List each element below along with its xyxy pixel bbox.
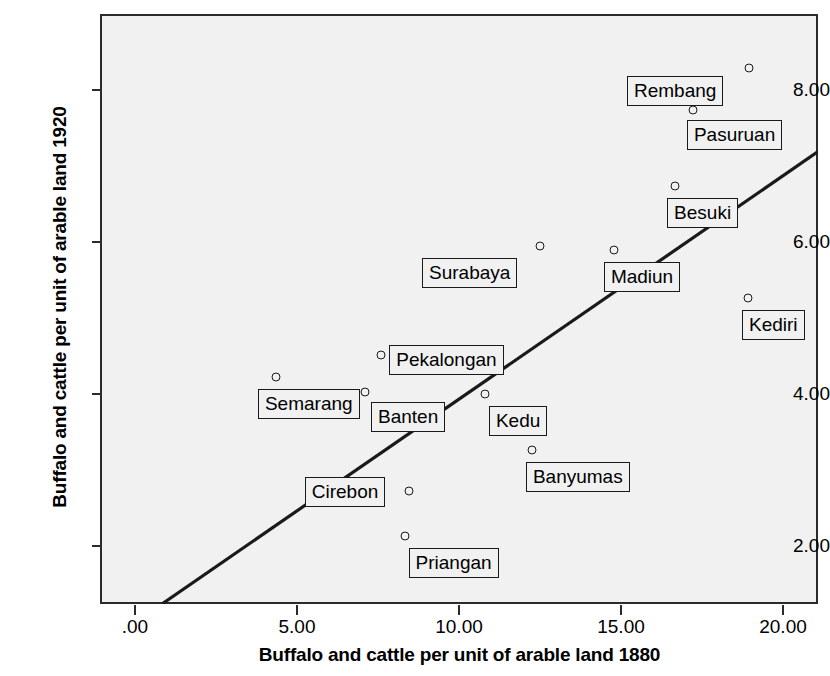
data-point-kediri[interactable]: [744, 294, 753, 303]
y-tick-mark: [92, 89, 101, 91]
data-point-kedu[interactable]: [480, 390, 489, 399]
point-label-besuki: Besuki: [667, 198, 738, 228]
point-label-kediri: Kediri: [742, 310, 805, 340]
point-label-madiun: Madiun: [604, 262, 680, 292]
point-label-priangan: Priangan: [409, 548, 499, 578]
y-tick-mark: [92, 241, 101, 243]
data-point-rembang[interactable]: [744, 63, 753, 72]
data-point-cirebon[interactable]: [404, 487, 413, 496]
data-point-surabaya[interactable]: [536, 241, 545, 250]
y-tick-label: 4.00: [744, 383, 830, 405]
y-tick-label: 6.00: [744, 231, 830, 253]
point-label-banyumas: Banyumas: [526, 462, 630, 492]
data-point-pasuruan[interactable]: [688, 105, 697, 114]
point-label-pekalongan: Pekalongan: [389, 345, 503, 375]
x-tick-mark: [782, 605, 784, 615]
point-label-cirebon: Cirebon: [305, 477, 386, 507]
point-label-surabaya: Surabaya: [422, 258, 517, 288]
x-tick-label: 15.00: [566, 616, 676, 638]
point-label-kedu: Kedu: [489, 406, 547, 436]
data-point-pekalongan[interactable]: [377, 350, 386, 359]
x-tick-label: 10.00: [404, 616, 514, 638]
scatter-chart-figure: Buffalo and cattle per unit of arable la…: [0, 0, 830, 676]
data-point-madiun[interactable]: [609, 245, 618, 254]
data-point-besuki[interactable]: [671, 181, 680, 190]
x-tick-label: 5.00: [242, 616, 352, 638]
y-tick-label: 8.00: [744, 79, 830, 101]
x-axis-label: Buffalo and cattle per unit of arable la…: [100, 644, 819, 666]
y-tick-mark: [92, 393, 101, 395]
data-point-banten[interactable]: [361, 387, 370, 396]
data-point-priangan[interactable]: [400, 532, 409, 541]
x-tick-label: 20.00: [728, 616, 830, 638]
x-tick-mark: [134, 605, 136, 615]
point-label-rembang: Rembang: [627, 76, 723, 106]
point-label-pasuruan: Pasuruan: [687, 120, 782, 150]
x-tick-mark: [296, 605, 298, 615]
y-axis-label: Buffalo and cattle per unit of arable la…: [49, 7, 71, 607]
x-tick-mark: [458, 605, 460, 615]
point-label-banten: Banten: [371, 402, 445, 432]
y-tick-label: 2.00: [744, 535, 830, 557]
x-tick-mark: [620, 605, 622, 615]
data-point-semarang[interactable]: [271, 373, 280, 382]
point-label-semarang: Semarang: [258, 389, 360, 419]
y-tick-mark: [92, 545, 101, 547]
x-tick-label: .00: [80, 616, 190, 638]
data-point-banyumas[interactable]: [527, 446, 536, 455]
